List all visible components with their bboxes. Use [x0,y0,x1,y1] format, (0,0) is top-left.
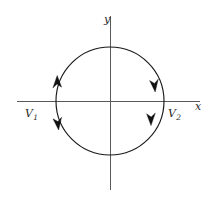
y-axis-label: y [104,14,110,25]
v1-base: V [25,107,33,120]
phase-plane-figure: y x V1 V2 [0,0,212,202]
v2-base: V [168,107,176,120]
arrow-left-upper-icon [53,76,62,88]
arrow-right-lower-icon [147,113,156,126]
point-label-v1: V1 [25,108,38,119]
arrow-right-upper-icon [150,79,159,92]
x-axis-label: x [195,101,201,112]
v1-subscript: 1 [33,113,38,122]
point-label-v2: V2 [168,108,181,119]
v2-subscript: 2 [176,113,181,122]
arrow-left-lower-icon [53,117,62,130]
diagram-canvas [0,0,212,202]
